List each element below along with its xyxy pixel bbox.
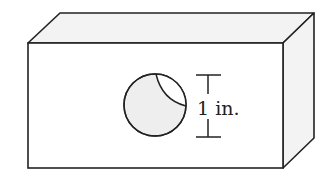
block-top-face: [28, 13, 314, 43]
hole: [124, 74, 186, 136]
dimension-label: 1 in.: [197, 97, 239, 119]
block-with-hole-diagram: 1 in.: [0, 0, 331, 177]
